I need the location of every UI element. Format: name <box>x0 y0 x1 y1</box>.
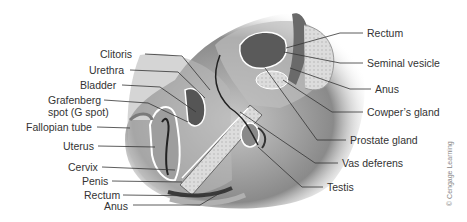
label-rectum-male: Rectum <box>367 27 403 39</box>
label-fallopian-tube: Fallopian tube <box>26 121 92 133</box>
male-bladder <box>240 32 287 68</box>
label-uterus: Uterus <box>63 140 94 152</box>
label-g-spot: spot (G spot) <box>48 106 109 118</box>
label-bladder: Bladder <box>80 79 116 91</box>
anatomy-figure: Clitoris Urethra Bladder Grafenberg spot… <box>0 0 467 222</box>
label-anus-male: Anus <box>375 83 399 95</box>
copyright-credit: © Cengage Learning <box>446 141 453 206</box>
label-testis: Testis <box>327 181 354 193</box>
testis <box>241 123 259 147</box>
label-seminal-vesicle: Seminal vesicle <box>367 57 440 69</box>
label-urethra: Urethra <box>89 64 124 76</box>
label-penis: Penis <box>82 175 108 187</box>
label-cervix: Cervix <box>68 161 98 173</box>
label-anus-female: Anus <box>104 200 128 212</box>
label-cowpers-gland: Cowper’s gland <box>367 106 440 118</box>
label-clitoris: Clitoris <box>100 48 132 60</box>
label-prostate-gland: Prostate gland <box>350 134 418 146</box>
label-grafenberg: Grafenberg <box>48 94 101 106</box>
label-vas-deferens: Vas deferens <box>342 157 403 169</box>
